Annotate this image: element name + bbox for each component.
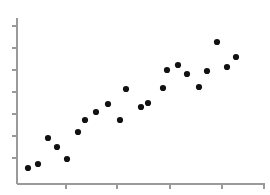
data-point: [164, 67, 170, 73]
data-point: [93, 109, 99, 115]
data-point: [35, 161, 41, 167]
axes-group: [12, 18, 265, 189]
data-point: [204, 68, 210, 74]
plot-canvas: [0, 0, 270, 195]
data-point: [45, 135, 51, 141]
data-point: [123, 86, 129, 92]
data-point: [233, 54, 239, 60]
data-point: [175, 62, 181, 68]
data-point: [64, 156, 70, 162]
data-point: [184, 71, 190, 77]
data-point: [82, 117, 88, 123]
data-points-group: [25, 39, 239, 171]
data-point: [25, 165, 31, 171]
data-point: [214, 39, 220, 45]
data-point: [196, 84, 202, 90]
data-point: [117, 117, 123, 123]
data-point: [54, 144, 60, 150]
data-point: [138, 104, 144, 110]
data-point: [75, 129, 81, 135]
data-point: [160, 85, 166, 91]
data-point: [105, 101, 111, 107]
data-point: [145, 100, 151, 106]
scatter-plot-figure: [0, 0, 270, 195]
data-point: [224, 64, 230, 70]
